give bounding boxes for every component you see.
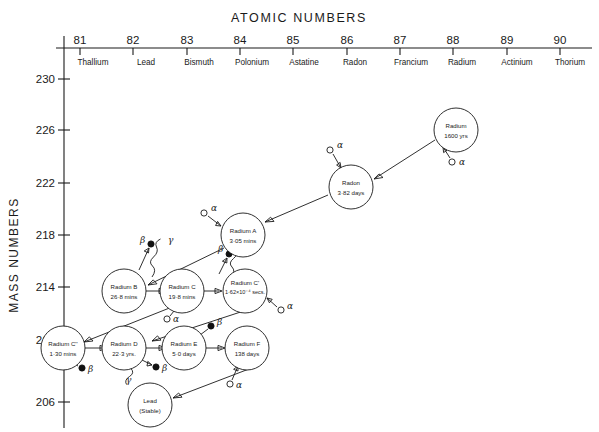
x-tick-label: 86 [341,34,354,46]
node-radium-c-prime[interactable]: Radium C' 1·62×10⁻⁴ secs. [223,269,267,313]
node-radium-c-double-prime[interactable]: Radium C'' 1·30 mins [41,326,85,370]
beta-particle-icon [79,365,85,371]
node-circle[interactable] [162,326,206,370]
element-label: Radium [448,58,476,67]
node-name: Lead [143,397,157,404]
alpha-label: α [287,301,293,311]
beta-particle-icon [148,241,154,247]
element-label: Thorium [555,58,585,67]
node-circle[interactable] [221,213,265,257]
alpha-marker-raf: α [227,366,242,390]
element-label: Bismuth [184,58,214,67]
node-circle[interactable] [329,165,373,209]
node-halflife: 26·8 mins [111,293,138,300]
node-halflife: 1·62×10⁻⁴ secs. [225,289,266,295]
node-name: Radium E [171,340,198,347]
y-tick-label: 222 [36,177,55,189]
beta-particle-icon [208,323,214,329]
node-name: Radium D [110,340,138,347]
chart-title: ATOMIC NUMBERS [231,11,367,25]
node-circle[interactable] [434,108,478,152]
decay-arrow-ra-rn [374,140,435,179]
node-halflife: 19·8 mins [169,293,196,300]
node-radium-e[interactable]: Radium E 5·0 days [162,326,206,370]
y-axis-title: MASS NUMBERS [7,197,21,312]
nuclide-nodes: Radium 1600 yrs Radon 3·82 days Radium A… [41,108,478,427]
node-name: Radium C'' [48,340,77,347]
beta-label: β [139,235,145,245]
alpha-particle-icon [164,316,170,322]
element-label: Polonium [235,58,269,67]
x-tick-label: 81 [74,34,87,46]
beta-label: β [161,363,167,373]
alpha-label: α [236,380,242,390]
y-tick-label: 214 [36,281,56,293]
node-radium-b[interactable]: Radium B 26·8 mins [102,269,146,313]
alpha-particle-icon [201,210,207,216]
x-tick-label: 82 [127,34,140,46]
node-lead-stable[interactable]: Lead (Stable) [128,383,172,427]
beta-label: β [217,244,223,254]
alpha-particle-icon [449,159,455,165]
alpha-marker-rn: α [327,140,343,168]
node-halflife: 5·0 days [172,350,195,357]
node-halflife: 3·82 days [338,189,365,196]
alpha-marker-raa: α [201,203,221,226]
node-name: Radium C [168,283,196,290]
alpha-particle-icon [227,381,233,387]
decay-series-figure: ATOMIC NUMBERS 81 82 83 84 85 86 87 88 8… [0,0,599,432]
node-radon[interactable]: Radon 3·82 days [329,165,373,209]
arrowhead [152,336,161,341]
beta-label: β [87,364,93,374]
alpha-particle-icon [327,147,333,153]
x-tick-labels: 81 82 83 84 85 86 87 88 89 90 [74,34,567,46]
node-halflife: 3·05 mins [230,237,257,244]
node-radium-a[interactable]: Radium A 3·05 mins [221,213,265,257]
node-radium-d[interactable]: Radium D 22·3 yrs. [102,326,146,370]
arrowhead [173,393,182,398]
node-radium-c[interactable]: Radium C 19·8 mins [160,269,204,313]
node-circle[interactable] [102,269,146,313]
node-halflife: 1600 yrs [444,132,467,139]
x-tick-label: 83 [181,34,194,46]
node-circle[interactable] [160,269,204,313]
node-name: Radium C' [231,279,259,286]
x-tick-label: 89 [501,34,514,46]
element-label: Francium [394,58,428,67]
node-halflife: 1·30 mins [50,350,77,357]
alpha-label: α [459,157,465,167]
node-name: Radium B [111,283,138,290]
x-element-labels: Thallium Lead Bismuth Polonium Astatine … [78,58,586,67]
node-name: Radium [446,122,467,129]
node-name: Radium F [234,340,261,347]
node-halflife: (Stable) [139,407,160,414]
node-radium-f[interactable]: Radium F 138 days [225,326,269,370]
x-tick-label: 90 [554,34,567,46]
node-circle[interactable] [128,383,172,427]
gamma-label: γ [168,235,174,245]
decay-arrow-rn-raa [265,195,328,222]
node-circle[interactable] [41,326,85,370]
y-tick-label: 230 [36,73,55,85]
y-tick-label: 218 [36,229,55,241]
beta-label: β [216,317,222,327]
x-tick-label: 84 [234,34,247,46]
beta-gamma-marker-rab: β γ [139,235,174,277]
alpha-marker-racp: α [267,298,293,313]
alpha-label: α [337,140,343,150]
x-tick-marks [80,48,560,55]
arrowhead [84,337,93,342]
alpha-label: α [211,203,217,213]
element-label: Lead [137,58,156,67]
element-label: Radon [343,58,368,67]
node-name: Radium A [230,227,257,234]
x-tick-label: 85 [287,34,300,46]
node-name: Radon [342,179,360,186]
node-circle[interactable] [102,326,146,370]
element-label: Actinium [501,58,533,67]
node-circle[interactable] [225,326,269,370]
alpha-particle-icon [278,307,284,313]
node-radium[interactable]: Radium 1600 yrs [434,108,478,152]
gamma-label: γ [126,375,132,385]
y-tick-label: 206 [36,396,55,408]
